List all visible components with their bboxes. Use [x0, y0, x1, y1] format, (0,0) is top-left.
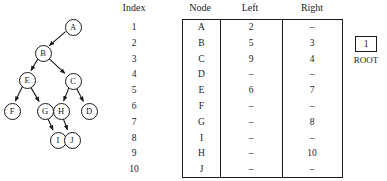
tree-edge-e-f	[15, 87, 22, 101]
table-row: F––	[183, 99, 342, 115]
table-cell-node: H	[183, 146, 220, 162]
tree-node-a: A	[65, 19, 82, 36]
tree-node-g: G	[37, 103, 54, 120]
table-cell-right: 8	[282, 115, 342, 131]
tree-edge-a-b	[50, 32, 66, 46]
table-row: A2–	[183, 20, 342, 36]
tree-node-j: J	[64, 132, 81, 149]
index-cell: 9	[113, 146, 155, 162]
table-cell-left: 9	[220, 52, 282, 68]
table-cell-left: 6	[220, 83, 282, 99]
table-cell-node: F	[183, 99, 220, 115]
index-cell: 3	[113, 52, 155, 68]
table-cell-left: –	[220, 131, 282, 147]
column-header-node: Node	[180, 2, 220, 13]
table-row: E67	[183, 83, 342, 99]
tree-edge-b-e	[31, 59, 38, 70]
index-cell: 10	[113, 162, 155, 178]
table-cell-node: G	[183, 115, 220, 131]
root-pointer: 1 ROOT	[352, 36, 380, 65]
tree-edge-e-g	[30, 86, 39, 101]
table-cell-right: –	[282, 99, 342, 115]
table-cell-left: 2	[220, 20, 282, 36]
index-cell: 7	[113, 115, 155, 131]
table-cell-left: –	[220, 162, 282, 178]
tree-node-h: H	[53, 103, 70, 120]
table-cell-left: 5	[220, 36, 282, 52]
index-cell: 8	[113, 131, 155, 147]
index-cell: 4	[113, 67, 155, 83]
table-row: I––	[183, 131, 342, 147]
table-cell-node: D	[183, 67, 220, 83]
index-cell: 2	[113, 36, 155, 52]
table-row: J––	[183, 162, 342, 178]
root-pointer-label: ROOT	[352, 55, 380, 65]
table-row: H–10	[183, 146, 342, 162]
table-row: C94	[183, 52, 342, 68]
table-cell-node: A	[183, 20, 220, 36]
figure-canvas: ABECFGHDIJ Index Node Left Right 1234567…	[0, 0, 387, 181]
table-cell-left: –	[220, 99, 282, 115]
tree-node-e: E	[19, 72, 36, 89]
tree-node-f: F	[4, 103, 21, 120]
table-cell-left: –	[220, 115, 282, 131]
table-cell-right: 7	[282, 83, 342, 99]
tree-edge-c-d	[76, 88, 83, 102]
tree-edge-g-i	[47, 118, 52, 130]
table-cell-node: E	[183, 83, 220, 99]
table-cell-right: –	[282, 131, 342, 147]
table-cell-right: 4	[282, 52, 342, 68]
table-cell-right: –	[282, 20, 342, 36]
tree-edge-b-c	[48, 58, 64, 73]
table-row: B53	[183, 36, 342, 52]
tree-edge-c-h	[64, 88, 69, 101]
table-cell-left: –	[220, 146, 282, 162]
table-cell-right: –	[282, 67, 342, 83]
table-cell-left: –	[220, 67, 282, 83]
node-table: A2–B53C94D––E67F––G–8I––H–10J––	[182, 19, 343, 178]
tree-edges-layer	[0, 0, 120, 181]
table-cell-right: 10	[282, 146, 342, 162]
index-cell: 5	[113, 83, 155, 99]
table-cell-node: J	[183, 162, 220, 178]
node-table-body: A2–B53C94D––E67F––G–8I––H–10J––	[183, 20, 342, 177]
column-header-left: Left	[228, 2, 272, 13]
root-pointer-value: 1	[355, 36, 377, 52]
tree-node-b: B	[35, 45, 52, 62]
index-cell: 6	[113, 99, 155, 115]
index-column: 12345678910	[113, 20, 155, 178]
table-cell-node: C	[183, 52, 220, 68]
tree-node-d: D	[81, 103, 98, 120]
tree-edge-h-j	[63, 118, 67, 130]
column-header-index: Index	[113, 2, 155, 13]
tree-node-c: C	[65, 73, 82, 90]
table-cell-right: 3	[282, 36, 342, 52]
binary-tree-diagram: ABECFGHDIJ	[0, 0, 120, 181]
column-header-right: Right	[288, 2, 336, 13]
table-row: D––	[183, 67, 342, 83]
table-cell-node: B	[183, 36, 220, 52]
table-row: G–8	[183, 115, 342, 131]
table-cell-right: –	[282, 162, 342, 178]
table-cell-node: I	[183, 131, 220, 147]
index-cell: 1	[113, 20, 155, 36]
